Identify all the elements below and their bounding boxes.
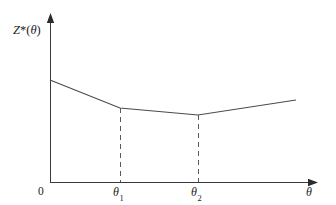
zstar-curve [50,80,296,115]
x-tick-label-theta1: θ1 [113,186,123,201]
chart-figure: Z*(θ) 0 θ1 θ2 θ [0,0,336,205]
x-axis-label: θ [306,186,312,198]
y-axis-label: Z*(θ) [13,24,41,37]
theta1-subscript: 1 [119,193,123,203]
y-axis-arrowhead [47,13,54,23]
theta2-subscript: 2 [197,193,201,203]
x-tick-label-theta2: θ2 [191,186,201,201]
plot-canvas [0,0,336,205]
y-axis-label-close-paren: ) [37,23,41,37]
x-tick-label-origin: 0 [38,186,44,198]
y-axis-label-symbol: Z [13,23,20,37]
